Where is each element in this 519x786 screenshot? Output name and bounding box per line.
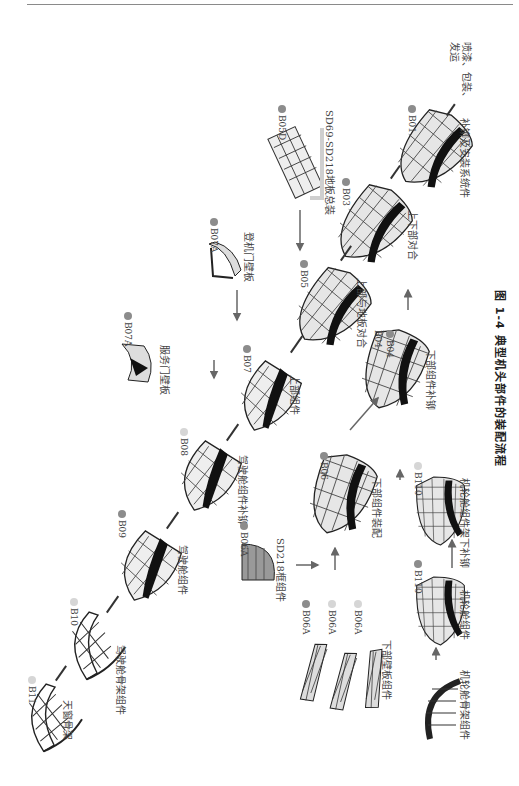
label-B05: 上部与地板对合 bbox=[355, 278, 367, 348]
code-B110-b: B110 bbox=[412, 462, 424, 496]
label-B110-a: 机轮舱组件 bbox=[458, 590, 470, 640]
label-B06: 下部组件装配 bbox=[370, 478, 382, 538]
code-B06: B06 bbox=[318, 452, 330, 480]
status-dot bbox=[386, 330, 394, 338]
status-dot bbox=[328, 600, 336, 608]
label-B10: 驾驶舱骨架组件 bbox=[114, 645, 126, 715]
code-B06A-panel-3: B06A bbox=[352, 600, 364, 635]
code-B03: B03 bbox=[340, 178, 352, 206]
status-dot bbox=[240, 522, 248, 530]
code-B05: B05 bbox=[298, 260, 310, 288]
status-dot bbox=[28, 676, 36, 684]
status-dot bbox=[118, 510, 126, 518]
code-B10: B10 bbox=[68, 598, 80, 626]
flow-arrows bbox=[0, 0, 519, 786]
code-B08: B08 bbox=[178, 428, 190, 456]
status-dot bbox=[70, 598, 78, 606]
label-B01: 补铆及安装系统件 bbox=[458, 118, 470, 198]
label-B11: 天窗骨架 bbox=[61, 700, 73, 740]
label-B07A-boarding: 登机门壁板 bbox=[242, 232, 254, 282]
label-B07A-service: 服务门壁板 bbox=[158, 345, 170, 395]
status-dot bbox=[302, 600, 310, 608]
figure-caption: 图 1-4 典型机头部件的装配流程 bbox=[493, 290, 505, 467]
status-dot bbox=[354, 600, 362, 608]
label-B03: 上下部对合 bbox=[406, 210, 418, 260]
label-B04: 下部组件补铆 bbox=[424, 350, 436, 410]
status-dot bbox=[414, 462, 422, 470]
label-B110-b: 机轮舱组件架下补铆 bbox=[458, 478, 470, 568]
status-dot bbox=[210, 218, 218, 226]
status-dot bbox=[320, 452, 328, 460]
status-dot bbox=[408, 105, 416, 113]
code-B07A-boarding: B07A bbox=[208, 218, 220, 253]
status-dot bbox=[342, 178, 350, 186]
code-B07: B07 bbox=[241, 345, 253, 373]
code-B110-a: B110 bbox=[412, 560, 424, 594]
label-B09: 驾驶舱组件 bbox=[176, 545, 188, 595]
code-B09: B09 bbox=[116, 510, 128, 538]
status-dot bbox=[414, 560, 422, 568]
label-B07: 上部组件 bbox=[288, 375, 300, 415]
status-dot bbox=[278, 105, 286, 113]
code-B06A-panel-1: B06A bbox=[300, 600, 312, 635]
code-B07A-service: B07A bbox=[122, 312, 134, 347]
label-B06A-panels: 下部壁板组件 bbox=[380, 640, 392, 700]
label-B08: 驾驶舱组件补铆 bbox=[236, 455, 248, 525]
code-B04-b: B04 bbox=[384, 330, 396, 358]
status-dot bbox=[300, 260, 308, 268]
code-B05D: B05D bbox=[276, 105, 288, 140]
code-B11: B11 bbox=[26, 676, 38, 704]
status-dot bbox=[124, 312, 132, 320]
code-B04-a: B04 bbox=[372, 330, 384, 348]
status-dot bbox=[180, 428, 188, 436]
code-B06A-frame: B06A bbox=[238, 522, 250, 557]
code-B06A-panel-2: B06A bbox=[326, 600, 338, 635]
status-dot bbox=[243, 345, 251, 353]
label-B05D: SD69-SD218地板总装 bbox=[323, 110, 335, 215]
label-final: 喷漆、包装、发运 bbox=[448, 42, 472, 102]
label-B110-skeleton: 机轮舱骨架组件 bbox=[458, 670, 470, 740]
code-B01: B01 bbox=[406, 105, 418, 133]
label-B06A-frame: SD218框组件 bbox=[274, 538, 286, 602]
